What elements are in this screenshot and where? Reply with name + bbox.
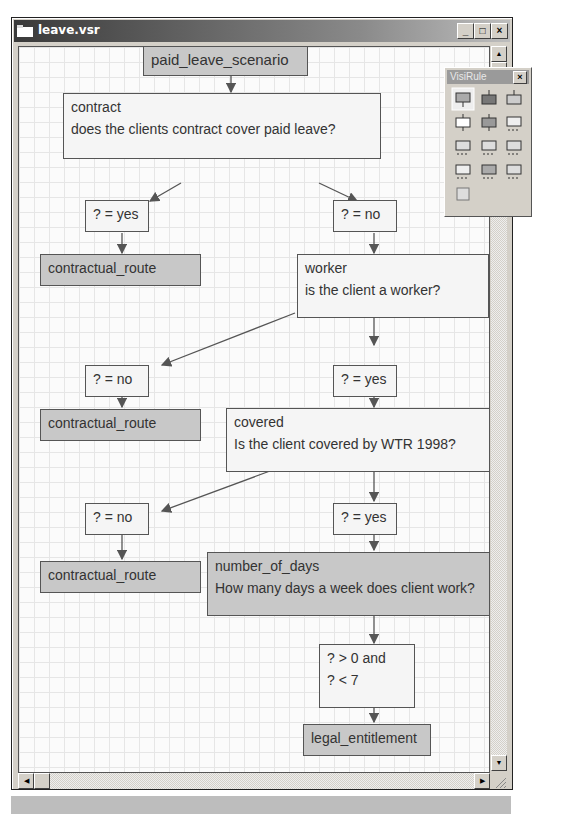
dark-input-tool-icon[interactable] [479,160,499,180]
question-node-contract[interactable]: contract does the clients contract cover… [63,93,381,159]
question-node-covered[interactable]: covered Is the client covered by WTR 199… [226,408,490,472]
condition-line-2: ? < 7 [327,669,407,691]
window-title: leave.vsr [38,23,100,37]
minimize-button[interactable]: _ [457,23,474,39]
answer-node-contract-no[interactable]: ? = no [333,200,397,232]
answer-node-contract-yes[interactable]: ? = yes [85,200,149,232]
condition-node-range[interactable]: ? > 0 and ? < 7 [319,644,415,708]
node-question: is the client a worker? [305,279,481,301]
input-node-number-of-days[interactable]: number_of_days How many days a week does… [207,552,490,616]
grid-tool-icon[interactable] [453,184,473,204]
statement-box-tool-icon[interactable] [452,88,472,108]
answer-node-worker-yes[interactable]: ? = yes [333,365,397,397]
end-box-tool-icon[interactable] [504,88,524,108]
scroll-right-button[interactable]: ▶ [474,773,490,789]
question-node-worker[interactable]: worker is the client a worker? [297,254,489,318]
menu-multi-tool-icon[interactable] [479,136,499,156]
caption-bar [11,796,511,814]
node-question: does the clients contract cover paid lea… [71,118,373,140]
diagram-canvas[interactable]: paid_leave_scenario contract does the cl… [18,46,490,773]
horizontal-scroll-thumb[interactable] [34,773,50,789]
numeric-input-tool-icon[interactable] [504,136,524,156]
node-name: covered [234,411,490,433]
dark-question-box-tool-icon[interactable] [479,112,499,132]
horizontal-scrollbar[interactable]: ◀ ▶ [18,773,490,789]
scroll-up-button[interactable]: ▲ [491,46,507,62]
node-name: contract [71,96,373,118]
expression-tool-icon[interactable] [504,160,524,180]
answer-node-covered-yes[interactable]: ? = yes [333,503,397,535]
folder-icon [17,24,33,37]
end-node-contractual-route[interactable]: contractual_route [40,409,201,441]
diagram-window: leave.vsr _ □ × [11,17,513,790]
node-name: number_of_days [215,555,490,577]
start-box-tool-icon[interactable] [479,88,499,108]
node-question: Is the client covered by WTR 1998? [234,433,490,455]
multi-choice-tool-icon[interactable] [504,112,524,132]
end-node-legal-entitlement[interactable]: legal_entitlement [303,724,431,756]
title-bar[interactable]: leave.vsr _ □ × [14,20,510,42]
text-input-tool-icon[interactable] [453,160,473,180]
condition-line-1: ? > 0 and [327,647,407,669]
scroll-down-button[interactable]: ▼ [491,755,507,771]
answer-node-covered-no[interactable]: ? = no [85,503,149,535]
scroll-left-button[interactable]: ◀ [18,773,34,789]
answer-node-worker-no[interactable]: ? = no [85,365,149,397]
menu-single-tool-icon[interactable] [453,136,473,156]
node-question: How many days a week does client work? [215,577,490,599]
close-button[interactable]: × [491,23,508,39]
maximize-button[interactable]: □ [474,23,491,39]
end-node-contractual-route[interactable]: contractual_route [40,561,201,593]
end-node-contractual-route[interactable]: contractual_route [40,254,201,286]
resize-grip-icon[interactable] [492,773,507,789]
start-node[interactable]: paid_leave_scenario [143,46,308,76]
visirule-palette: VisiRule × [444,67,532,217]
node-name: worker [305,257,481,279]
question-box-tool-icon[interactable] [453,112,473,132]
